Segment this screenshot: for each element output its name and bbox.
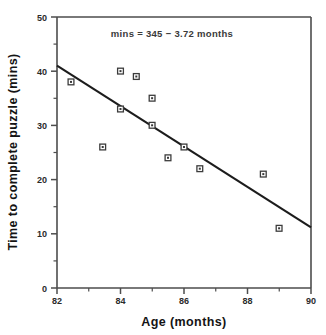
y-tick-label-30: 30 [37, 121, 47, 131]
data-point-marker [133, 74, 139, 80]
data-point-marker [149, 122, 155, 128]
data-point-marker [276, 225, 282, 231]
x-tick-label-84: 84 [115, 296, 125, 306]
data-point-marker [165, 155, 171, 161]
data-point-marker [260, 171, 266, 177]
scatter-plot-figure: 0 10 20 30 40 50 82 84 86 88 90 Age (mon… [0, 0, 326, 335]
data-point-marker [181, 144, 187, 150]
x-tick-label-86: 86 [179, 296, 189, 306]
y-axis-title: Time to complete puzzle (mins) [6, 53, 20, 250]
plot-canvas: 0 10 20 30 40 50 82 84 86 88 90 Age (mon… [0, 0, 326, 335]
x-tick-labels: 82 84 86 88 90 [52, 296, 316, 306]
data-point-marker [100, 144, 106, 150]
axes-frame [57, 17, 311, 288]
x-axis-major-ticks [57, 288, 311, 294]
y-tick-labels: 0 10 20 30 40 50 [37, 13, 47, 294]
data-point-marker [197, 166, 203, 172]
y-tick-label-20: 20 [37, 175, 47, 185]
x-tick-label-88: 88 [242, 296, 252, 306]
data-point-marker [118, 106, 124, 112]
y-tick-label-40: 40 [37, 67, 47, 77]
y-tick-label-10: 10 [37, 229, 47, 239]
x-axis-title: Age (months) [141, 315, 226, 329]
data-point-marker [149, 95, 155, 101]
y-tick-label-0: 0 [42, 284, 47, 294]
regression-equation-annotation: mins = 345 − 3.72 months [111, 28, 233, 39]
y-tick-label-50: 50 [37, 13, 47, 23]
x-tick-label-82: 82 [52, 296, 62, 306]
data-point-marker [68, 79, 74, 85]
data-point-marker [118, 68, 124, 74]
x-tick-label-90: 90 [306, 296, 316, 306]
